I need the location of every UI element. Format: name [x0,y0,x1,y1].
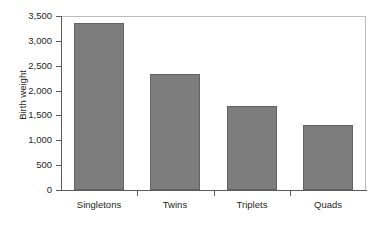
x-axis-category-label: Quads [290,199,366,210]
x-axis-category-label: Twins [137,199,213,210]
y-axis-title: Birth weight [17,45,28,145]
bar-chart: Birth weight 05001,0001,5002,0002,5003,0… [0,0,386,229]
y-axis-tick-label: 3,000 [28,36,52,46]
y-axis-tick-label: 1,000 [28,135,52,145]
bar [150,74,200,190]
y-axis-tick [56,140,61,141]
y-axis-line [61,16,62,191]
y-axis-tick [56,165,61,166]
x-axis-tick [214,191,215,196]
y-axis-tick-label: 2,500 [28,61,52,71]
y-axis-tick-label: 1,500 [28,110,52,120]
bar [303,125,353,190]
y-axis-tick [56,115,61,116]
y-axis-tick [56,190,61,191]
y-axis-tick [56,91,61,92]
x-axis-category-label: Triplets [214,199,290,210]
y-axis-tick-label: 2,000 [28,86,52,96]
y-axis-tick-label: 0 [47,185,52,195]
y-axis-tick [56,66,61,67]
y-axis-tick [56,41,61,42]
x-axis-category-label: Singletons [61,199,137,210]
x-axis-tick [290,191,291,196]
bar [74,23,124,190]
y-axis-tick-label: 3,500 [28,11,52,21]
bar [227,106,277,190]
y-axis-tick-label: 500 [36,160,52,170]
y-axis-tick [56,16,61,17]
x-axis-tick [137,191,138,196]
